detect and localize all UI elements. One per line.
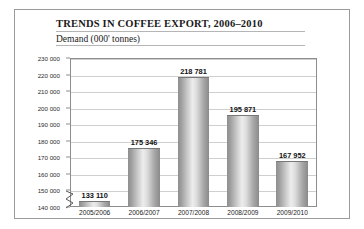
x-axis-tick-label: 2007/2008 bbox=[169, 209, 218, 216]
y-axis-tick-label: 220 000 bbox=[38, 71, 60, 78]
bar-value-label: 133 110 bbox=[70, 191, 119, 200]
bar-value-label: 218 781 bbox=[169, 67, 218, 76]
bar[interactable] bbox=[178, 77, 210, 207]
y-axis-tick-label: 210 000 bbox=[38, 88, 60, 95]
bars-layer: 133 110175 346218 781195 871167 952 bbox=[70, 58, 317, 207]
bar-value-label: 175 346 bbox=[119, 138, 168, 147]
bar-slot: 167 952 bbox=[268, 58, 317, 207]
x-axis-tick-label: 2006/2007 bbox=[119, 209, 168, 216]
bar-value-label: 167 952 bbox=[268, 151, 317, 160]
y-axis-tick-label: 170 000 bbox=[38, 154, 60, 161]
bar[interactable] bbox=[276, 161, 308, 207]
bar[interactable] bbox=[128, 148, 160, 207]
bar[interactable] bbox=[79, 201, 111, 207]
bar-slot: 218 781 bbox=[169, 58, 218, 207]
y-axis-tick-label: 200 000 bbox=[38, 104, 60, 111]
bar-value-label: 195 871 bbox=[218, 105, 267, 114]
x-axis-tick-label: 2009/2010 bbox=[268, 209, 317, 216]
x-axis-tick-label: 2008/2009 bbox=[218, 209, 267, 216]
y-axis-tick-label: 140 000 bbox=[38, 204, 60, 211]
y-axis: 140 000150 000160 000170 000180 000190 0… bbox=[15, 58, 66, 207]
y-axis-tick-label: 160 000 bbox=[38, 170, 60, 177]
chart-title: TRENDS IN COFFEE EXPORT, 2006–2010 bbox=[56, 18, 305, 32]
bar[interactable] bbox=[227, 115, 259, 207]
x-axis-tick-label: 2005/2006 bbox=[70, 209, 119, 216]
y-axis-tick-label: 190 000 bbox=[38, 121, 60, 128]
chart-subtitle: Demand (000' tonnes) bbox=[56, 32, 305, 46]
bar-slot: 195 871 bbox=[218, 58, 267, 207]
y-axis-tick-label: 150 000 bbox=[38, 187, 60, 194]
bar-slot: 133 110 bbox=[70, 58, 119, 207]
y-axis-tick-label: 180 000 bbox=[38, 137, 60, 144]
y-axis-tick-label: 230 000 bbox=[38, 55, 60, 62]
x-axis: 2005/20062006/20072007/20082008/20092009… bbox=[70, 209, 317, 221]
chart-figure: TRENDS IN COFFEE EXPORT, 2006–2010 Deman… bbox=[14, 9, 350, 219]
chart-header: TRENDS IN COFFEE EXPORT, 2006–2010 Deman… bbox=[56, 18, 305, 46]
bar-slot: 175 346 bbox=[119, 58, 168, 207]
